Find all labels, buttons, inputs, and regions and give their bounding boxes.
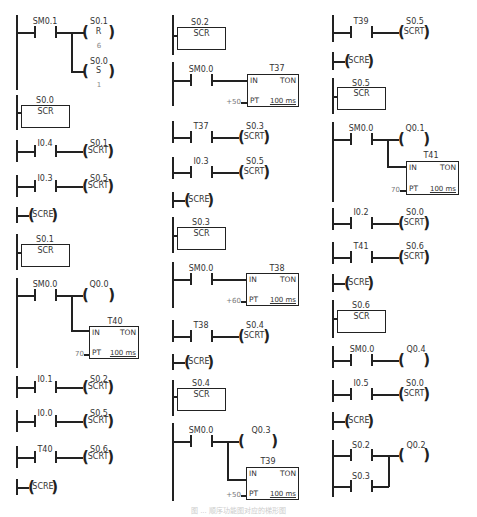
reset-count: 6 — [97, 42, 101, 50]
scre-coil: (SCRE) — [28, 479, 58, 495]
contact-label: S0.3 — [352, 472, 370, 481]
contact-left-bar — [34, 26, 36, 38]
timer-name: T37 — [269, 64, 284, 73]
scr-box: SCR — [177, 27, 226, 50]
contact-label: I0.1 — [37, 375, 52, 384]
power-rail — [16, 15, 18, 90]
scrt-coil: (SCRT) — [398, 386, 430, 402]
contact-label: SM0.0 — [189, 426, 214, 435]
ton-timer-box: INTON PT100 ms — [246, 273, 299, 306]
scr-box: SCR — [21, 105, 70, 128]
output-coil: () — [398, 352, 430, 368]
contact-label: SM0.0 — [33, 280, 58, 289]
scrt-coil: (SCRT) — [82, 143, 114, 159]
contact-label: T41 — [353, 242, 368, 251]
scrt-coil: (SCRT) — [398, 24, 430, 40]
scr-address: S0.0 — [36, 96, 54, 105]
preset-value: +50 — [226, 491, 241, 499]
contact-label: T39 — [353, 17, 368, 26]
scr-box: SCR — [177, 388, 226, 411]
contact-label: I0.3 — [37, 174, 52, 183]
scrt-coil: (SCRT) — [82, 178, 114, 194]
ton-timer-box: INTON PT100 ms — [247, 74, 299, 107]
reset-coil: (R) — [82, 24, 115, 40]
contact-label: I0.2 — [353, 208, 368, 217]
preset-value: +60 — [226, 297, 241, 305]
contact-label: SM0.0 — [189, 65, 214, 74]
ton-timer-box: INTON PT100 ms — [406, 161, 459, 195]
scr-address: S0.2 — [191, 18, 209, 27]
scr-address: S0.3 — [192, 218, 210, 227]
output-coil: () — [398, 131, 430, 147]
scre-coil: (SCRE) — [344, 53, 374, 69]
scrt-coil: (SCRT) — [238, 164, 270, 180]
contact-label: SM0.0 — [350, 345, 375, 354]
scr-address: S0.4 — [192, 379, 210, 388]
contact-label: I0.0 — [37, 409, 52, 418]
timer-name: T41 — [423, 151, 438, 160]
scrt-coil: (SCRT) — [238, 129, 270, 145]
scr-box: SCR — [21, 244, 70, 267]
scrt-coil: (SCRT) — [398, 215, 430, 231]
contact-label: SM0.0 — [349, 124, 374, 133]
contact-label: SM0.1 — [33, 17, 58, 26]
preset-value: 70 — [386, 186, 400, 194]
scr-box: SCR — [337, 87, 386, 110]
set-count: 1 — [97, 81, 101, 89]
contact-label: S0.2 — [352, 441, 370, 450]
output-coil: () — [398, 447, 430, 463]
contact-label: I0.3 — [193, 157, 208, 166]
scr-address: S0.6 — [352, 301, 370, 310]
scre-coil: (SCRE) — [184, 192, 214, 208]
timer-name: T39 — [260, 457, 275, 466]
scr-box: SCR — [177, 227, 226, 250]
output-coil: () — [238, 433, 278, 449]
contact-label: T37 — [193, 122, 208, 131]
contact-label: T38 — [193, 321, 208, 330]
ton-timer-box: INTON PT100 ms — [89, 326, 139, 359]
figure-caption: 图 ... 顺序功能图对应的梯形图 — [0, 505, 477, 515]
preset-value: 70 — [70, 350, 84, 358]
scrt-coil: (SCRT) — [398, 249, 430, 265]
contact-label: I0.4 — [37, 139, 52, 148]
scrt-coil: (SCRT) — [238, 328, 270, 344]
scr-box: SCR — [337, 310, 386, 333]
contact-label: I0.5 — [353, 379, 368, 388]
scrt-coil: (SCRT) — [82, 449, 114, 465]
scre-coil: (SCRE) — [28, 207, 58, 223]
set-coil: (S) — [82, 63, 115, 79]
contact-label: T40 — [37, 445, 52, 454]
scr-address: S0.1 — [36, 235, 54, 244]
ton-timer-box: INTON PT100 ms — [246, 467, 299, 500]
preset-value: +50 — [226, 98, 241, 106]
scrt-coil: (SCRT) — [82, 379, 114, 395]
scre-coil: (SCRE) — [344, 275, 374, 291]
scrt-coil: (SCRT) — [82, 413, 114, 429]
timer-name: T38 — [269, 264, 284, 273]
scre-coil: (SCRE) — [344, 413, 374, 429]
timer-name: T40 — [107, 317, 122, 326]
scre-coil: (SCRE) — [184, 354, 214, 370]
contact-label: SM0.0 — [189, 264, 214, 273]
output-coil: () — [82, 287, 115, 303]
